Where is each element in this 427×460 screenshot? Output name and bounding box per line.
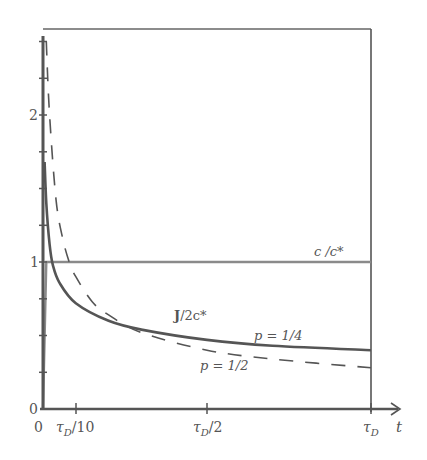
y-tick-label-2: 2 bbox=[29, 107, 38, 123]
j-symbol: J bbox=[173, 308, 180, 323]
annotation-j-over-2cstar: J/2c* bbox=[173, 308, 207, 323]
subscript-d: D bbox=[370, 427, 379, 438]
plot-frame bbox=[43, 29, 371, 412]
series-p-half-dashed bbox=[46, 42, 371, 368]
j-rest: /2c* bbox=[180, 308, 207, 323]
x-axis-label-t: t bbox=[396, 418, 403, 436]
x-axis bbox=[40, 403, 400, 415]
x-tick-label-tau: τD bbox=[363, 419, 379, 438]
annotation-c-over-cstar: c /c* bbox=[314, 244, 344, 259]
annotation-p-half: p = 1/2 bbox=[200, 358, 248, 373]
subscript-d: D bbox=[63, 427, 72, 438]
annotation-p-quarter: p = 1/4 bbox=[254, 328, 302, 343]
y-tick-label-0: 0 bbox=[29, 401, 38, 417]
fraction-text: /10 bbox=[72, 419, 95, 435]
chart: 0 1 2 0 τD/10 τD/2 τD t c /c* J/2c* p = … bbox=[0, 0, 427, 460]
x-tick-label-tau-2: τD/2 bbox=[193, 419, 222, 438]
subscript-d: D bbox=[200, 427, 209, 438]
series-c-over-cstar bbox=[43, 262, 371, 409]
fraction-text: /2 bbox=[209, 419, 223, 435]
x-tick-label-tau-10: τD/10 bbox=[56, 419, 94, 438]
y-axis bbox=[39, 36, 47, 409]
y-tick-label-1: 1 bbox=[30, 254, 39, 270]
x-tick-label-0: 0 bbox=[34, 419, 43, 435]
